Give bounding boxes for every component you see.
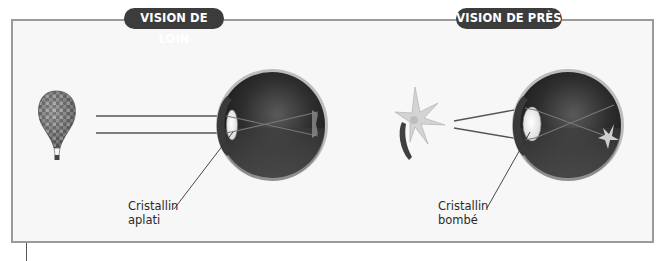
eye-near-vision-icon — [512, 69, 624, 181]
hot-air-balloon-icon — [39, 91, 76, 160]
lens-pointer-near — [487, 132, 530, 208]
panel-title-near-vision: VISION DE PRÈS — [456, 8, 562, 29]
light-rays-far — [96, 116, 226, 133]
lens-label-near: Cristallin bombé — [438, 199, 488, 227]
lens-label-far-line2: aplati — [128, 213, 178, 227]
lens-label-near-line1: Cristallin — [438, 199, 488, 213]
panel-title-far-vision: VISION DE LOIN — [124, 8, 224, 29]
flower-icon — [395, 87, 445, 160]
lens-label-near-line2: bombé — [438, 213, 488, 227]
lens-label-far: Cristallin aplati — [128, 199, 178, 227]
lens-label-far-line1: Cristallin — [128, 199, 178, 213]
diagram-illustration — [0, 0, 662, 261]
eye-far-vision-icon — [216, 69, 328, 181]
lens-pointer-far — [174, 132, 233, 209]
